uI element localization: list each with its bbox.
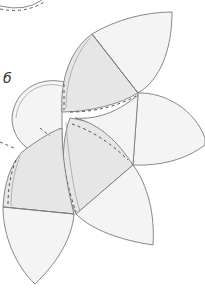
figure-label: б bbox=[3, 70, 12, 86]
top-arc-fragment bbox=[0, 0, 44, 10]
right-petal bbox=[133, 93, 205, 165]
bottom-left-petal bbox=[0, 128, 74, 284]
petal-pattern-diagram bbox=[0, 0, 205, 292]
